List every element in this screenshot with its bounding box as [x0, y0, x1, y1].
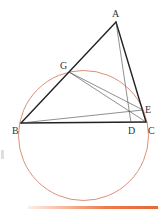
label-G: G — [60, 60, 67, 71]
segment-AC — [116, 22, 146, 122]
label-D: D — [128, 125, 135, 136]
segment-AD — [116, 22, 131, 123]
segment-AB — [21, 22, 116, 123]
segment-GE — [69, 72, 143, 110]
accent-bar — [28, 206, 158, 209]
label-A: A — [112, 8, 120, 19]
segment-BE — [21, 110, 143, 123]
label-E: E — [145, 104, 151, 115]
segment-BC — [21, 122, 146, 123]
segment-GC — [69, 72, 146, 122]
label-B: B — [12, 125, 19, 136]
label-C: C — [148, 125, 155, 136]
geometry-figure: A G E B D C — [0, 0, 167, 216]
edge-artifact — [1, 150, 4, 159]
